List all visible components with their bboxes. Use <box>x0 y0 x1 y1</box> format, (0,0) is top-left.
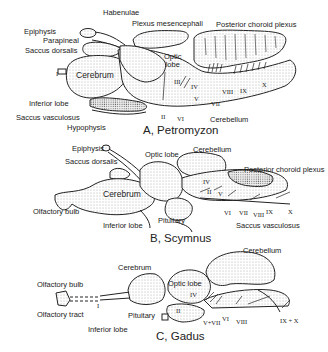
nerve-a-i: I <box>56 70 58 77</box>
nerve-b-x: X <box>288 208 293 215</box>
label-optic-lobe-c: Optic lobe <box>168 280 202 288</box>
label-pituitary-b: Pituitary <box>158 217 185 225</box>
nerve-b-viii: VIII <box>253 211 264 218</box>
nerve-a-iv: IV <box>191 83 198 90</box>
nerve-a-x: X <box>262 81 267 88</box>
caption-b: B, Scymnus <box>150 232 211 244</box>
label-olfactory-bulb-b: Olfactory bulb <box>33 208 79 216</box>
label-cerebellum-a: Cerebellum <box>210 116 248 124</box>
nerve-a-ii: II <box>161 113 165 120</box>
nerve-a-vii: VII <box>211 100 220 107</box>
nerve-c-iv: IV <box>190 291 197 298</box>
nerve-a-viii: VIII <box>222 88 233 95</box>
nerve-b-vi: VI <box>224 209 231 216</box>
label-epiphysis: Epiphysis <box>24 28 56 36</box>
nerve-c-ix-x: IX + X <box>280 317 298 324</box>
nerve-a-v: V <box>194 95 199 102</box>
nerve-b-ii: II <box>207 188 211 195</box>
nerve-a-vi: VI <box>177 115 184 122</box>
nerve-c-v-vii: V+VII <box>203 319 220 326</box>
nerve-a-iii: III <box>174 78 181 85</box>
nerve-b-ix: IX <box>266 208 273 215</box>
label-inferior-lobe-c: Inferior lobe <box>88 326 128 334</box>
nerve-a-ix: IX <box>240 87 247 94</box>
label-posterior-choroid-plexus: Posterior choroid plexus <box>216 21 296 29</box>
label-cerebrum-b: Cerebrum <box>103 190 141 198</box>
nerve-c-vi: VI <box>222 315 229 322</box>
label-saccus-vasculosus-b: Saccus vasculosus <box>236 222 300 230</box>
nerve-c-i: I <box>97 302 99 309</box>
label-inferior-lobe-b: Inferior lobe <box>103 222 143 230</box>
label-epiphysis-b: Epiphysis <box>72 145 104 153</box>
label-olfactory-bulb-c: Olfactory bulb <box>37 281 83 289</box>
label-inferior-lobe: Inferior lobe <box>29 100 69 108</box>
label-cerebrum: Cerebrum <box>76 71 114 79</box>
label-cerebellum-c: Cerebellum <box>243 247 281 255</box>
label-olfactory-tract-c: Olfactory tract <box>37 311 84 319</box>
label-parapineal: Parapineal <box>43 37 79 45</box>
label-plexus-mesencephali: Plexus mesencephali <box>132 20 203 28</box>
nerve-b-iv: IV <box>203 178 210 185</box>
label-habenulae: Habenulae <box>103 9 139 17</box>
label-saccus-dorsalis-b: Saccus dorsalis <box>65 158 118 166</box>
nerve-c-ii: II <box>176 307 180 314</box>
nerve-b-v: V <box>218 190 223 197</box>
label-cerebellum-b: Cerebellum <box>193 146 231 154</box>
label-cerebrum-c: Cerebrum <box>118 264 151 272</box>
label-saccus-vasculosus: Saccus vasculosus <box>16 114 80 122</box>
caption-a: A, Petromyzon <box>143 124 218 136</box>
nerve-c-viii: VIII <box>236 318 247 325</box>
caption-c: C, Gadus <box>156 330 205 342</box>
label-optic-lobe-b: Optic lobe <box>145 151 179 159</box>
nerve-b-vii: VII <box>239 209 248 216</box>
label-saccus-dorsalis: Saccus dorsalis <box>25 47 78 55</box>
label-posterior-choroid-plexus-b: Posterior choroid plexus <box>244 166 324 174</box>
label-hypophysis: Hypophysis <box>67 124 106 132</box>
label-pituitary-c: Pituitary <box>128 312 155 320</box>
label-optic-lobe: Optic lobe <box>164 53 182 69</box>
